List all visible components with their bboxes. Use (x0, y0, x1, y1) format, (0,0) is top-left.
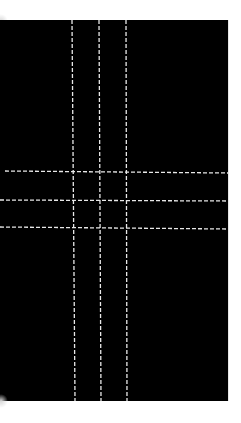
horizontal-dashed-line-1 (5, 171, 228, 173)
vertical-dashed-line-3 (126, 20, 127, 401)
dashed-grid-lines (0, 0, 241, 423)
horizontal-dashed-line-3 (0, 227, 228, 229)
vertical-dashed-line-2 (99, 20, 101, 401)
horizontal-dashed-line-2 (0, 200, 228, 201)
vertical-dashed-line-1 (72, 20, 75, 401)
